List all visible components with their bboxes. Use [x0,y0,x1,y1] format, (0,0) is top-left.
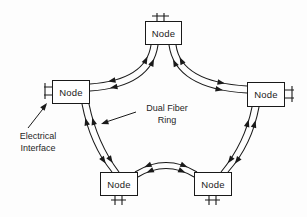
node-label: Node [201,179,225,190]
arrowhead-icon [107,77,116,84]
ring-label: Dual Fiber Ring [135,103,199,126]
fiber-top-right-inner [169,45,247,93]
fiber-bottom-inner [138,169,194,178]
stub-bottom-right-node [205,196,220,205]
arrowhead-icon [178,167,187,175]
node-box-top: Node [145,21,182,45]
arrowhead-icon [217,79,225,86]
interface-label-line1: Electrical [20,131,57,141]
fiber-right-outer [228,107,259,172]
stub-left-node [44,83,52,99]
arrowhead-icon [100,119,109,127]
fiber-bottom-outer [135,163,197,173]
arrowhead-icon [83,117,90,126]
interface-label-line2: Interface [20,143,55,153]
node-box-right: Node [247,82,285,107]
fiber-left-outer [82,104,112,172]
fiber-top-left-inner [90,45,158,91]
node-label: Node [59,87,83,98]
node-box-left: Node [52,80,90,104]
stub-bottom-left-node [111,196,126,205]
arrowhead-icon [215,86,223,93]
node-label: Node [107,179,131,190]
node-box-bottom-left: Node [100,172,138,196]
arrowhead-icon [244,119,251,128]
stub-right-node [285,86,294,102]
fiber-top-left-outer [90,45,151,84]
ring-label-line1: Dual Fiber [146,103,188,113]
arrowhead-icon [109,84,118,91]
arrowhead-icon [251,119,258,128]
ring-label-line2: Ring [158,115,177,125]
arrowhead-icon [90,117,97,126]
dual-fiber-ring-diagram: Node Node Node Node Node Dual Fiber Ring… [0,0,307,217]
arrowhead-icon [99,156,108,165]
node-label: Node [254,89,278,100]
node-label: Node [152,28,176,39]
node-box-bottom-right: Node [194,172,232,196]
interface-label: Electrical Interface [9,131,67,154]
arrowhead-icon [106,155,115,164]
arrowhead-icon [40,101,49,110]
stub-top-node [152,13,169,21]
fiber-top-right-outer [176,45,247,86]
arrowhead-icon [145,167,154,175]
